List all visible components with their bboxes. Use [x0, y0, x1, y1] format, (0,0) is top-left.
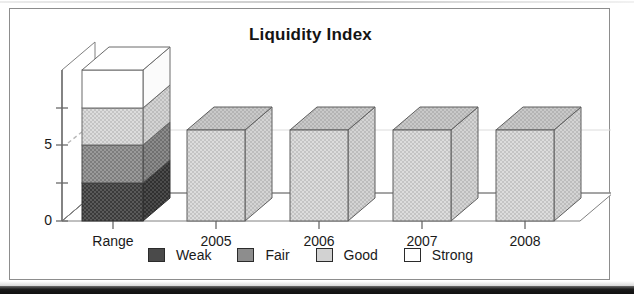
scan-artifact-top	[0, 1, 634, 3]
bar-range-segment-good-front	[82, 108, 143, 145]
chart-frame: Liquidity Index	[9, 8, 610, 280]
screenshot-page: Liquidity Index	[0, 0, 634, 294]
chart-legend: Weak Fair Good Strong	[10, 247, 611, 263]
legend-item-good[interactable]: Good	[316, 247, 378, 263]
bar-range-stacked	[82, 47, 170, 221]
scan-artifact-bottom-dark	[0, 286, 634, 294]
bar-2007-front	[393, 130, 451, 221]
bar-range-segment-weak-front	[82, 183, 143, 221]
bar-2008	[496, 107, 581, 221]
legend-swatch-good-icon	[316, 248, 333, 262]
bar-2007	[393, 107, 478, 221]
y-axis-tick-label-5: 5	[30, 136, 52, 152]
legend-swatch-fair-icon	[237, 248, 254, 262]
legend-label-strong: Strong	[432, 247, 473, 263]
legend-item-weak[interactable]: Weak	[148, 247, 212, 263]
legend-label-fair: Fair	[265, 247, 289, 263]
bar-2008-front	[496, 130, 554, 221]
legend-item-strong[interactable]: Strong	[404, 247, 473, 263]
bar-range-segment-strong-front	[82, 70, 143, 108]
bar-range-segment-fair-front	[82, 145, 143, 183]
bar-2006	[290, 107, 375, 221]
legend-swatch-strong-icon	[404, 248, 421, 262]
legend-label-good: Good	[344, 247, 378, 263]
bar-2005	[187, 107, 272, 221]
y-axis	[56, 70, 68, 221]
bar-2006-front	[290, 130, 348, 221]
legend-swatch-weak-icon	[148, 248, 165, 262]
y-axis-tick-label-0: 0	[30, 212, 52, 228]
x-axis-ticks	[113, 221, 525, 229]
legend-item-fair[interactable]: Fair	[237, 247, 289, 263]
bar-2005-front	[187, 130, 245, 221]
chart-plot-area: Liquidity Index	[10, 9, 611, 281]
legend-label-weak: Weak	[176, 247, 212, 263]
